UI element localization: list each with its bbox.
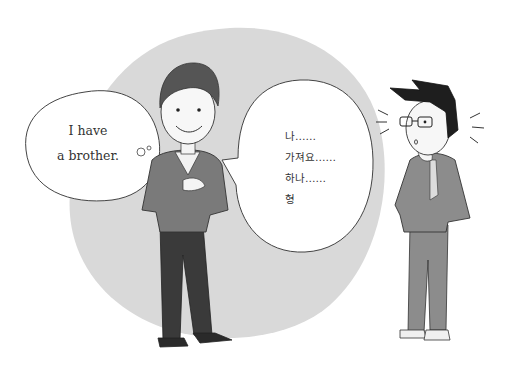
puzzled-man — [376, 80, 484, 340]
speech-line: 가져요…… — [285, 147, 375, 168]
speech-bubble-text: 나…… 가져요…… 하나…… 형 — [285, 126, 375, 210]
speech-line: 형 — [285, 189, 375, 210]
cartoon-scene: I have a brother. 나…… 가져요…… 하나…… 형 — [0, 0, 514, 369]
speech-line: 하나…… — [285, 168, 375, 189]
illustration-canvas — [0, 0, 514, 369]
speech-line: 나…… — [285, 126, 375, 147]
thought-line: a brother. — [38, 143, 138, 168]
thought-bubble-text: I have a brother. — [38, 118, 138, 168]
thought-line: I have — [38, 118, 138, 143]
